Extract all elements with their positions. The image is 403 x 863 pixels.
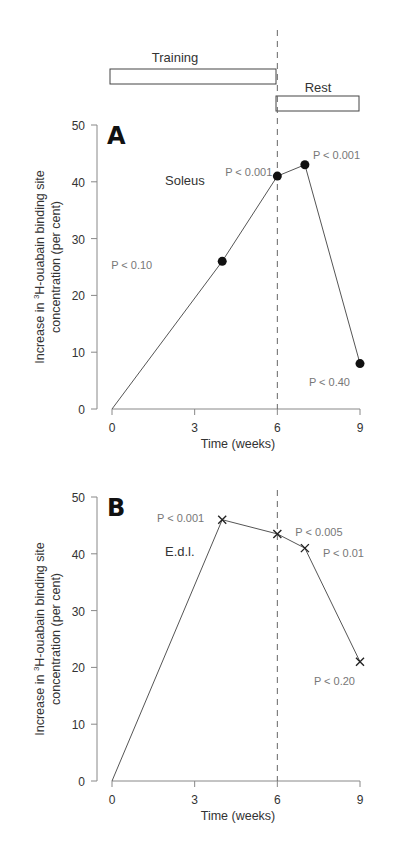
x-tick-label: 0 — [109, 793, 116, 807]
training-label: Training — [152, 50, 198, 65]
y-tick-label: 0 — [78, 775, 85, 789]
x-tick-label: 6 — [274, 793, 281, 807]
data-point-marker — [301, 544, 309, 552]
panel-b: 010203040500369Time (weeks)Increase in 3… — [32, 490, 364, 823]
training-bar — [110, 69, 276, 84]
y-axis-label: Increase in 3H-ouabain binding siteconce… — [32, 542, 63, 736]
y-tick-label: 20 — [72, 289, 86, 303]
x-tick-label: 3 — [191, 421, 198, 435]
x-tick-label: 3 — [191, 793, 198, 807]
y-tick-label: 50 — [72, 491, 86, 505]
p-value-annotation: P < 0.001 — [313, 149, 360, 161]
figure: Training Rest 010203040500369Time (weeks… — [0, 0, 403, 863]
p-value-annotation: P < 0.01 — [323, 547, 364, 559]
x-tick-label: 6 — [274, 421, 281, 435]
data-point-marker — [218, 516, 226, 524]
panel-letter: A — [107, 122, 126, 150]
p-value-annotation: P < 0.001 — [157, 512, 204, 524]
x-tick-label: 0 — [109, 421, 116, 435]
data-point-marker — [356, 658, 364, 666]
y-tick-label: 0 — [78, 403, 85, 417]
x-tick-label: 9 — [357, 793, 364, 807]
x-axis-label: Time (weeks) — [201, 437, 276, 451]
y-tick-label: 30 — [72, 233, 86, 247]
p-value-annotation: P < 0.20 — [314, 675, 355, 687]
y-tick-label: 40 — [72, 548, 86, 562]
data-point-marker — [273, 172, 282, 181]
data-line — [112, 165, 360, 409]
data-point-marker — [300, 160, 309, 169]
x-axis-label: Time (weeks) — [201, 809, 276, 823]
y-tick-label: 40 — [72, 176, 86, 190]
y-tick-label: 10 — [72, 718, 86, 732]
data-point-marker — [356, 359, 365, 368]
y-axis-label: Increase in 3H-ouabain binding siteconce… — [32, 170, 63, 364]
x-tick-label: 9 — [357, 421, 364, 435]
p-value-annotation: P < 0.001 — [225, 166, 272, 178]
p-value-annotation: P < 0.40 — [309, 376, 350, 388]
muscle-label: E.d.l. — [165, 544, 195, 559]
y-tick-label: 10 — [72, 346, 86, 360]
rest-label: Rest — [305, 80, 332, 95]
y-tick-label: 20 — [72, 661, 86, 675]
muscle-label: Soleus — [165, 173, 205, 188]
p-value-annotation: P < 0.005 — [295, 526, 342, 538]
y-tick-label: 30 — [72, 605, 86, 619]
rest-bar — [276, 96, 359, 111]
y-tick-label: 50 — [72, 119, 86, 133]
p-value-annotation: P < 0.10 — [111, 259, 152, 271]
data-point-marker — [218, 257, 227, 266]
panel-letter: B — [107, 494, 125, 522]
